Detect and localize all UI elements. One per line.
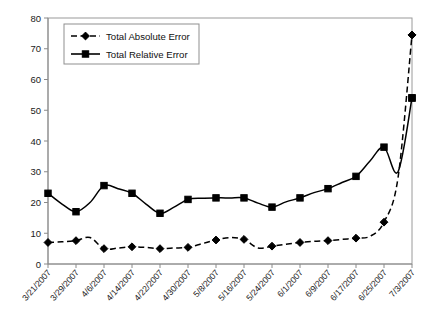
data-point-marker-square [73,209,79,215]
data-point-marker-square [185,196,191,202]
data-point-marker-diamond [128,243,136,251]
series-line-path [48,98,412,213]
data-point-marker-diamond [156,245,164,253]
data-point-marker-square [101,182,107,188]
data-point-marker-square [82,51,88,57]
data-point-marker-square [45,190,51,196]
x-tick-label: 7/3/2007 [387,267,417,299]
data-point-marker-diamond [268,242,276,250]
data-point-marker-diamond [100,245,108,253]
data-point-marker-diamond [352,234,360,242]
line-chart: 010203040506070803/21/20073/29/20074/6/2… [0,0,432,322]
y-tick-label: 60 [30,74,41,85]
data-point-marker-diamond [44,239,52,247]
data-point-marker-diamond [296,239,304,247]
data-point-marker-diamond [240,236,248,244]
data-point-marker-diamond [184,243,192,251]
data-point-marker-square [241,195,247,201]
y-tick-label: 10 [30,228,41,239]
data-point-marker-square [297,195,303,201]
y-tick-label: 70 [30,43,41,54]
data-point-marker-square [409,95,415,101]
data-point-marker-diamond [408,31,416,39]
legend-entry-label: Total Relative Error [106,49,188,60]
y-tick-label: 30 [30,166,41,177]
data-point-marker-square [213,195,219,201]
x-tick-label: 4/30/2007 [160,267,193,302]
data-point-marker-diamond [72,237,80,245]
data-point-marker-square [381,144,387,150]
series-total-relative-error [45,95,415,217]
chart-container: 010203040506070803/21/20073/29/20074/6/2… [0,0,432,322]
y-axis-ticks: 01020304050607080 [30,13,48,270]
data-point-marker-square [353,173,359,179]
series-line-path [48,35,412,249]
x-tick-label: 6/25/2007 [356,267,389,302]
data-point-marker-diamond [212,236,220,244]
y-tick-label: 0 [36,259,41,270]
chart-legend: Total Absolute ErrorTotal Relative Error [64,24,199,64]
y-tick-label: 20 [30,197,41,208]
data-point-marker-square [269,204,275,210]
x-tick-label: 5/24/2007 [244,267,277,302]
x-axis-ticks: 3/21/20073/29/20074/6/20074/14/20074/22/… [20,264,417,303]
y-tick-label: 80 [30,13,41,24]
data-point-marker-diamond [380,218,388,226]
data-point-marker-diamond [324,237,332,245]
y-tick-label: 50 [30,105,41,116]
data-point-marker-square [129,190,135,196]
data-point-marker-square [325,185,331,191]
x-tick-label: 3/29/2007 [48,267,81,302]
x-tick-label: 6/1/2007 [275,267,305,299]
data-point-marker-square [157,210,163,216]
legend-entry-label: Total Absolute Error [106,31,191,42]
y-tick-label: 40 [30,136,41,147]
